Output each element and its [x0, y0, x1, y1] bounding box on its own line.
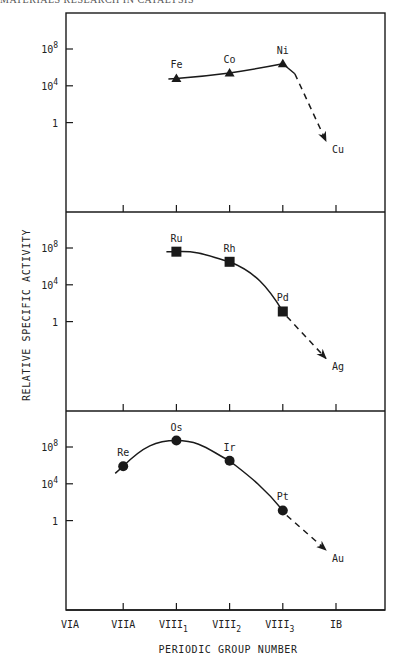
element-label-ni: Ni	[277, 45, 289, 56]
y-tick-label: 108	[41, 41, 58, 55]
x-tick-label: VIII1	[159, 619, 188, 634]
chart-frame	[66, 13, 385, 610]
square-marker	[278, 306, 288, 316]
element-label-os: Os	[170, 422, 182, 433]
y-tick-label: 1	[52, 118, 58, 129]
y-tick-label: 104	[41, 277, 58, 291]
element-label-au: Au	[332, 553, 344, 564]
triangle-marker	[278, 59, 288, 68]
element-label-re: Re	[117, 447, 129, 458]
square-marker	[171, 247, 181, 257]
circle-marker	[225, 456, 235, 466]
trend-line	[166, 252, 282, 312]
extrapolation-arrow	[295, 74, 326, 141]
x-tick-label: IB	[330, 619, 342, 630]
element-label-fe: Fe	[170, 59, 182, 70]
element-label-rh: Rh	[224, 243, 236, 254]
y-axis-label: RELATIVE SPECIFIC ACTIVITY	[21, 229, 32, 401]
x-tick-label: VIIA	[111, 619, 135, 630]
x-tick-label: VIII3	[265, 619, 294, 634]
x-tick-label: VIII2	[212, 619, 241, 634]
y-tick-label: 108	[41, 439, 58, 453]
x-tick-label: VIA	[61, 619, 79, 630]
circle-marker	[171, 436, 181, 446]
square-marker	[225, 257, 235, 267]
circle-marker	[278, 505, 288, 515]
y-tick-label: 1	[52, 516, 58, 527]
element-label-ir: Ir	[224, 442, 236, 453]
x-axis-label: PERIODIC GROUP NUMBER	[158, 644, 297, 655]
element-label-pt: Pt	[277, 491, 289, 502]
y-tick-label: 104	[41, 78, 58, 92]
panel-2: 1081041AgRuRhPd	[41, 233, 385, 411]
extrapolation-arrow	[287, 316, 326, 358]
element-label-co: Co	[224, 54, 236, 65]
y-tick-label: 104	[41, 476, 58, 490]
y-tick-label: 1	[52, 317, 58, 328]
element-label-pd: Pd	[277, 292, 289, 303]
circle-marker	[118, 461, 128, 471]
element-label-cu: Cu	[332, 144, 344, 155]
extrapolation-arrow	[287, 515, 326, 550]
y-tick-label: 108	[41, 240, 58, 254]
trend-line	[115, 441, 283, 511]
chart-plot: 1081041CuFeCoNi1081041AgRuRhPd1081041AuR…	[0, 0, 400, 660]
element-label-ag: Ag	[332, 361, 344, 372]
panel-3: 1081041AuReOsIrPt	[41, 422, 385, 610]
panel-1: 1081041CuFeCoNi	[41, 41, 385, 212]
element-label-ru: Ru	[170, 233, 182, 244]
